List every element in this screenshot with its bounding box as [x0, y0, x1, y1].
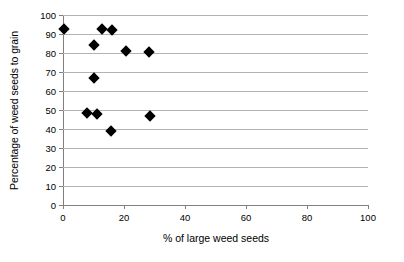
y-tick-label: 40: [45, 124, 56, 135]
x-tick-mark: [307, 205, 308, 209]
y-tick-label: 30: [45, 143, 56, 154]
y-tick-mark: [59, 186, 63, 187]
y-tick-label: 10: [45, 181, 56, 192]
y-tick-mark: [59, 167, 63, 168]
data-point: [88, 40, 99, 51]
y-tick-label: 100: [40, 10, 56, 21]
x-tick-label: 100: [360, 212, 376, 223]
x-tick-mark: [63, 205, 64, 209]
gridline: [63, 72, 368, 73]
x-tick-label: 80: [302, 212, 313, 223]
y-tick-mark: [59, 91, 63, 92]
scatter-chart-figure: Percentage of weed seeds to grain 010203…: [0, 0, 404, 262]
gridline: [63, 53, 368, 54]
x-tick-mark: [368, 205, 369, 209]
y-tick-label: 90: [45, 29, 56, 40]
y-tick-label: 0: [51, 200, 56, 211]
data-point: [120, 45, 131, 56]
y-tick-label: 50: [45, 105, 56, 116]
y-tick-mark: [59, 110, 63, 111]
y-tick-mark: [59, 15, 63, 16]
y-tick-mark: [59, 34, 63, 35]
y-tick-label: 20: [45, 162, 56, 173]
data-point: [106, 126, 117, 137]
x-tick-label: 20: [119, 212, 130, 223]
gridline: [63, 91, 368, 92]
x-tick-label: 40: [180, 212, 191, 223]
gridline: [63, 148, 368, 149]
y-tick-mark: [59, 129, 63, 130]
gridline: [63, 15, 368, 16]
data-point: [144, 47, 155, 58]
x-axis-title: % of large weed seeds: [63, 232, 369, 244]
y-tick-label: 80: [45, 48, 56, 59]
gridline: [63, 110, 368, 111]
plot-area: 0102030405060708090100 020406080100: [63, 15, 368, 205]
data-point: [88, 72, 99, 83]
gridline: [63, 186, 368, 187]
y-tick-label: 70: [45, 67, 56, 78]
x-tick-label: 0: [60, 212, 65, 223]
gridline: [63, 34, 368, 35]
x-axis-line: [63, 205, 368, 206]
x-tick-mark: [185, 205, 186, 209]
x-tick-mark: [246, 205, 247, 209]
y-tick-mark: [59, 53, 63, 54]
y-tick-label: 60: [45, 86, 56, 97]
y-axis-title: Percentage of weed seeds to grain: [3, 3, 25, 218]
x-tick-label: 60: [241, 212, 252, 223]
gridline: [63, 167, 368, 168]
x-tick-mark: [124, 205, 125, 209]
y-tick-mark: [59, 148, 63, 149]
y-tick-mark: [59, 72, 63, 73]
data-point: [144, 111, 155, 122]
